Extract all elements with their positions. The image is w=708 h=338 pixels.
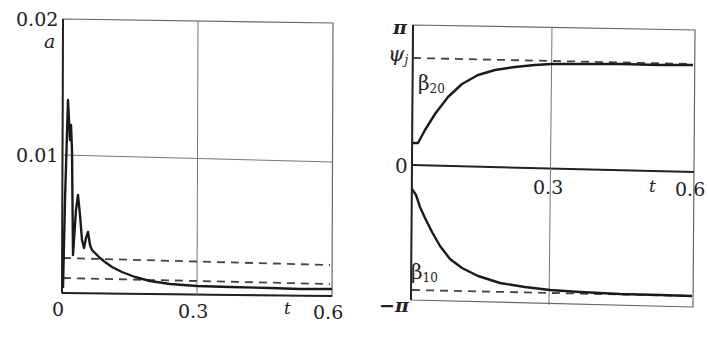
label-beta10: β10 [411,262,438,284]
right-ytick-pi: π [393,18,407,37]
left-xtick-0: 0 [52,300,64,319]
left-gridline-v-0.3 [197,21,198,295]
left-ytick-0.02: 0.02 [16,10,58,29]
figure-canvas [0,0,708,338]
right-curve-beta10 [412,189,692,296]
left-xtick-0.6: 0.6 [313,303,343,322]
left-xlabel-t: t [284,300,291,317]
right-gridline-v-0.3 [549,27,552,305]
left-plot [62,19,333,296]
right-ylabel-psi: ψj [388,44,408,66]
right-xtick-0.3: 0.3 [533,178,563,197]
right-ytick-0: 0 [395,156,408,176]
left-dashed-lower [63,278,330,284]
right-zero-line [412,165,694,172]
label-beta20: β20 [418,73,445,95]
right-curve-beta20 [413,64,693,143]
left-ylabel-a: a [44,32,55,51]
right-y-axis [411,25,413,300]
left-ytick-0.01: 0.01 [16,146,58,165]
right-xtick-0.6: 0.6 [675,180,705,199]
right-xlabel-t: t [649,178,656,195]
left-xtick-0.3: 0.3 [178,302,208,321]
right-plot [411,25,695,307]
right-ytick-minus-pi: −π [379,296,409,315]
